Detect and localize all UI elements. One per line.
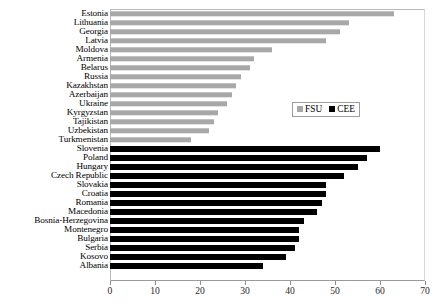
bar-row: Bulgaria	[0, 234, 436, 243]
bar-row: Montenegro	[0, 225, 436, 234]
bar-cee	[110, 263, 263, 269]
bar-cee	[110, 182, 326, 188]
bar-row: Kosovo	[0, 252, 436, 261]
chart-legend: FSU CEE	[292, 102, 360, 117]
bar-fsu	[110, 83, 236, 88]
bar-row: Latvia	[0, 36, 436, 45]
bar-cee	[110, 209, 317, 215]
bar-cee	[110, 173, 344, 179]
x-tick-label: 30	[240, 286, 250, 296]
legend-label-cee: CEE	[337, 104, 355, 114]
bar-cee	[110, 155, 367, 161]
x-tick-label: 10	[150, 286, 160, 296]
bar-fsu	[110, 11, 394, 16]
bar-cee	[110, 254, 286, 260]
legend-label-fsu: FSU	[305, 104, 322, 114]
bar-cee	[110, 146, 380, 152]
horizontal-bar-chart: EstoniaLithuaniaGeorgiaLatviaMoldovaArme…	[0, 0, 436, 303]
bar-fsu	[110, 92, 232, 97]
x-tick-label: 0	[108, 286, 113, 296]
x-tick-label: 40	[285, 286, 295, 296]
bar-cee	[110, 245, 295, 251]
legend-swatch-cee-icon	[329, 106, 335, 112]
bar-row: Slovenia	[0, 144, 436, 153]
bar-cee	[110, 200, 322, 206]
bar-fsu	[110, 110, 218, 115]
bar-row: Lithuania	[0, 18, 436, 27]
bar-cee	[110, 227, 299, 233]
bar-cee	[110, 191, 326, 197]
bar-rows-container: EstoniaLithuaniaGeorgiaLatviaMoldovaArme…	[0, 9, 436, 281]
bar-row: Armenia	[0, 54, 436, 63]
bar-row: Kyrgyzstan	[0, 108, 436, 117]
bar-fsu	[110, 137, 191, 142]
bar-fsu	[110, 56, 254, 61]
bar-fsu	[110, 65, 250, 70]
bar-row: Poland	[0, 153, 436, 162]
bar-row: Serbia	[0, 243, 436, 252]
bar-row: Georgia	[0, 27, 436, 36]
bar-fsu	[110, 74, 241, 79]
bar-row: Azerbaijan	[0, 90, 436, 99]
bar-row: Ukraine	[0, 99, 436, 108]
bar-row: Romania	[0, 198, 436, 207]
bar-row: Slovakia	[0, 180, 436, 189]
bar-row: Turkmenistan	[0, 135, 436, 144]
bar-cee	[110, 164, 358, 170]
x-tick-label: 60	[375, 286, 385, 296]
bar-fsu	[110, 128, 209, 133]
legend-item-cee: CEE	[329, 104, 355, 114]
x-tick-label: 50	[330, 286, 340, 296]
bar-row: Croatia	[0, 189, 436, 198]
legend-swatch-fsu-icon	[297, 106, 303, 112]
legend-item-fsu: FSU	[297, 104, 322, 114]
bar-fsu	[110, 101, 227, 106]
x-tick-label: 70	[420, 286, 430, 296]
bar-fsu	[110, 29, 340, 34]
category-label: Albania	[80, 261, 108, 270]
bar-fsu	[110, 38, 326, 43]
bar-fsu	[110, 119, 214, 124]
x-axis-ticks: 010203040506070	[0, 281, 436, 303]
bar-row: Czech Republic	[0, 171, 436, 180]
bar-row: Belarus	[0, 63, 436, 72]
bar-row: Albania	[0, 261, 436, 270]
bar-row: Estonia	[0, 9, 436, 18]
bar-row: Moldova	[0, 45, 436, 54]
bar-row: Tajikistan	[0, 117, 436, 126]
x-tick-label: 20	[195, 286, 205, 296]
bar-cee	[110, 218, 304, 224]
bar-cee	[110, 236, 299, 242]
bar-fsu	[110, 47, 272, 52]
bar-row: Kazakhstan	[0, 81, 436, 90]
bar-fsu	[110, 20, 349, 25]
